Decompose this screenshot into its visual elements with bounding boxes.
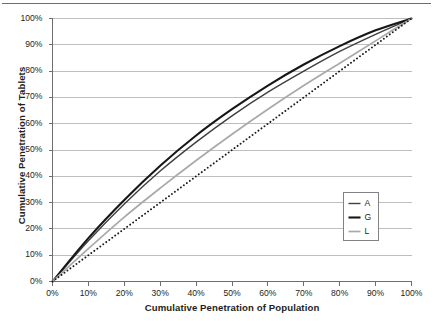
y-tick-label: 30% [7, 198, 43, 207]
y-tick-label: 60% [7, 119, 43, 128]
y-tick-label: 10% [7, 250, 43, 259]
x-tick-label: 80% [320, 289, 360, 298]
x-tick-label: 70% [284, 289, 324, 298]
legend-label-g: G [365, 213, 372, 222]
x-tick-label: 60% [248, 289, 288, 298]
chart-figure: Cumulative Penetration of Tablets Cumula… [0, 0, 433, 321]
legend-box [344, 193, 379, 241]
x-tick-label: 100% [392, 289, 432, 298]
legend-label-a: A [365, 199, 371, 208]
x-tick-label: 30% [140, 289, 180, 298]
x-tick-label: 10% [68, 289, 108, 298]
x-tick-label: 0% [33, 289, 73, 298]
y-tick-label: 100% [7, 14, 43, 23]
plot-area [0, 0, 433, 321]
y-tick-label: 40% [7, 171, 43, 180]
y-tick-label: 50% [7, 145, 43, 154]
x-tick-label: 20% [104, 289, 144, 298]
legend-label-l: L [365, 227, 370, 236]
y-tick-label: 80% [7, 66, 43, 75]
x-tick-label: 90% [356, 289, 396, 298]
y-tick-label: 20% [7, 224, 43, 233]
y-tick-label: 0% [7, 277, 43, 286]
y-tick-label: 70% [7, 92, 43, 101]
x-tick-label: 40% [176, 289, 216, 298]
y-tick-label: 90% [7, 40, 43, 49]
x-tick-label: 50% [212, 289, 252, 298]
